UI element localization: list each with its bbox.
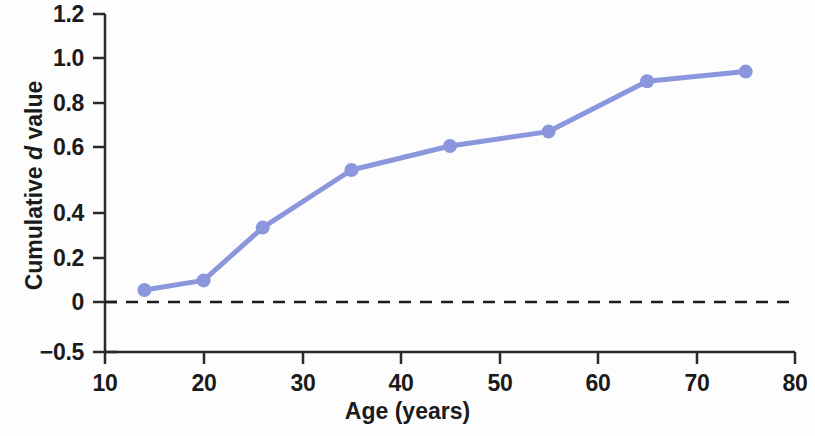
y-axis-title-prefix: Cumulative — [21, 160, 47, 290]
y-tick-label-minus0_5: −0.5 — [0, 339, 84, 366]
x-axis-title: Age (years) — [0, 398, 815, 425]
x-tick-label-60: 60 — [586, 370, 611, 397]
y-axis-title-suffix: value — [21, 81, 47, 146]
x-axis-ticks — [105, 352, 795, 364]
data-point — [542, 125, 556, 139]
data-point-markers — [137, 65, 752, 297]
data-point — [344, 163, 358, 177]
y-tick-label-1_2: 1.2 — [0, 1, 84, 28]
data-series-line — [144, 72, 745, 290]
x-tick-label-70: 70 — [685, 370, 710, 397]
x-tick-label-40: 40 — [389, 370, 414, 397]
data-point — [256, 221, 270, 235]
data-point — [640, 74, 654, 88]
data-point — [443, 139, 457, 153]
x-tick-label-80: 80 — [783, 370, 808, 397]
x-tick-label-10: 10 — [93, 370, 118, 397]
x-tick-label-30: 30 — [291, 370, 316, 397]
data-point — [137, 283, 151, 297]
data-point — [739, 65, 753, 79]
y-axis-title-italic-d: d — [21, 146, 47, 160]
y-axis-title: Cumulative d value — [21, 56, 48, 316]
x-tick-label-50: 50 — [488, 370, 513, 397]
chart-container: 1.2 1.0 0.8 0.6 0.4 0.2 0 −0.5 10 20 30 … — [0, 0, 815, 436]
x-tick-label-20: 20 — [192, 370, 217, 397]
data-point — [197, 273, 211, 287]
